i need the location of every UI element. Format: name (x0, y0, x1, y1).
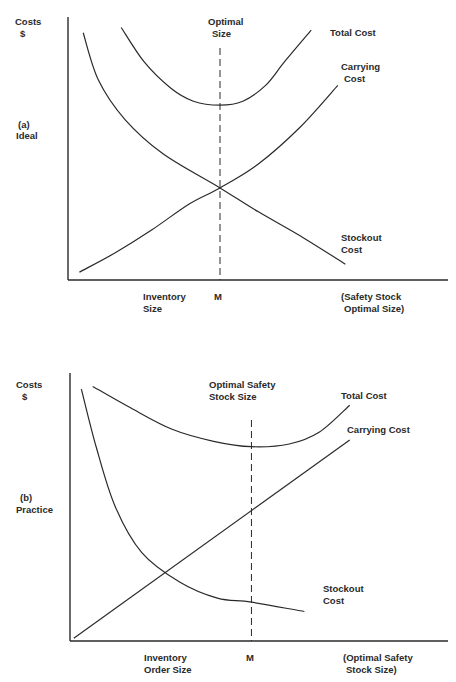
y-axis-unit: $ (20, 28, 26, 39)
series-label-stockout-cost-2: Cost (323, 595, 345, 606)
series-label-carrying-cost: Carrying (341, 61, 380, 72)
series-line-carrying-cost (74, 440, 350, 638)
series-label-stockout-cost-2: Cost (341, 244, 363, 255)
x-axis-label-left-2: Size (143, 303, 162, 314)
x-axis-label-right-2: Stock Size) (346, 664, 397, 675)
series-label-stockout-cost: Stockout (323, 583, 364, 594)
x-axis-label-left-2: Order Size (144, 664, 192, 675)
optimal-marker-label: Optimal (208, 16, 243, 27)
x-axis-label-right-2: Optimal Size) (344, 303, 404, 314)
series-line-stockout-cost (83, 33, 345, 264)
x-axis-label-right: (Safety Stock (341, 291, 402, 302)
x-axis-label-right: (Optimal Safety (343, 652, 413, 663)
optimal-marker-label-2: Stock Size (209, 391, 257, 402)
y-axis-label: Costs (16, 379, 42, 390)
panel-label-name: Ideal (16, 130, 38, 141)
x-axis-marker-m: M (214, 291, 222, 302)
series-label-stockout-cost: Stockout (341, 232, 382, 243)
panel-label-letter: (b) (20, 492, 32, 503)
panel-label-letter: (a) (18, 119, 30, 130)
x-axis-label-left: Inventory (144, 652, 187, 663)
panel-b-practice: Costs $ (b) Practice Optimal Safety Stoc… (16, 373, 448, 675)
series-line-carrying-cost (79, 85, 337, 272)
optimal-marker-label-2: Size (212, 28, 231, 39)
x-axis-marker-m: M (246, 652, 254, 663)
series-line-total-cost (121, 28, 311, 106)
panel-a-ideal: Costs $ (a) Ideal Optimal Size Total Cos… (15, 16, 448, 314)
x-axis-label-left: Inventory (143, 291, 186, 302)
series-label-total-cost: Total Cost (341, 390, 388, 401)
optimal-marker-label: Optimal Safety (209, 379, 276, 390)
panel-label-name: Practice (16, 504, 53, 515)
series-line-stockout-cost (81, 389, 304, 611)
series-label-carrying-cost: Carrying Cost (347, 424, 411, 435)
series-label-carrying-cost-2: Cost (344, 73, 366, 84)
cost-charts: Costs $ (a) Ideal Optimal Size Total Cos… (0, 0, 456, 682)
y-axis-unit: $ (22, 391, 28, 402)
series-label-total-cost: Total Cost (330, 27, 377, 38)
y-axis-label: Costs (15, 16, 41, 27)
